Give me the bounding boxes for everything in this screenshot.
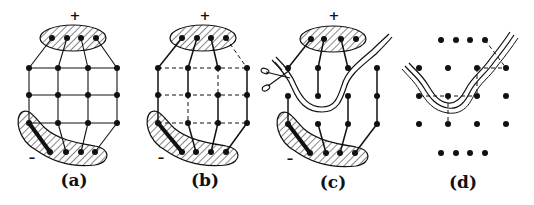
plus-sign-b: +: [200, 8, 211, 23]
panel-label-a: (a): [60, 170, 87, 190]
minus-sign-b: –: [158, 150, 165, 165]
network-cut-figure: + – (a) + – (b) + – (c) (d): [0, 0, 534, 205]
minus-sign-c: –: [287, 151, 294, 166]
plus-sign-c: +: [329, 8, 340, 23]
panel-label-c: (c): [320, 172, 346, 192]
panel-label-b: (b): [191, 170, 219, 190]
panel-d: [402, 32, 518, 156]
panel-label-d: (d): [449, 172, 477, 192]
dual-edges: [419, 40, 506, 124]
panel-c: [260, 26, 392, 167]
cut-line: [402, 32, 518, 113]
plus-sign-a: +: [70, 8, 81, 23]
minus-sign-a: –: [29, 150, 36, 165]
panel-b: [147, 25, 250, 166]
panel-a: [18, 25, 120, 166]
